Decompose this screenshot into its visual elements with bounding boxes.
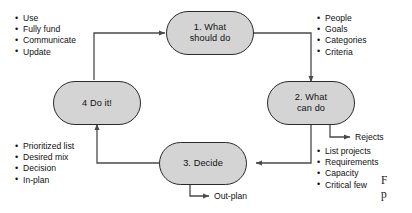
list-item: People xyxy=(317,13,367,24)
bullet-list-can-do-outputs: List projects Requirements Capacity Crit… xyxy=(317,146,379,191)
bullet-list-decide-outputs: Prioritized list Desired mix Decision In… xyxy=(15,141,74,186)
bullet-list-do-it-outputs: Use Fully fund Communicate Update xyxy=(15,13,76,58)
connector-decide-to-outplan xyxy=(190,184,209,196)
list-item: Capacity xyxy=(317,168,379,179)
list-item: Fully fund xyxy=(15,24,76,35)
node-what-can-do-line2: can do xyxy=(295,103,327,114)
node-do-it[interactable]: 4 Do it! xyxy=(53,81,141,125)
node-what-can-do-line1: 2. What xyxy=(295,92,327,103)
connector-cando-to-decide xyxy=(256,124,311,163)
list-item: Criteria xyxy=(317,47,367,58)
connector-decide-to-doit xyxy=(97,124,160,163)
node-what-should-do[interactable]: 1. What should do xyxy=(166,11,254,55)
list-item: Goals xyxy=(317,24,367,35)
bullet-list-should-do-outputs: People Goals Categories Criteria xyxy=(317,13,367,58)
node-do-it-line1: 4 Do it! xyxy=(82,98,112,109)
list-item: Use xyxy=(15,13,76,24)
list-item: Decision xyxy=(15,163,74,174)
list-item: Prioritized list xyxy=(15,141,74,152)
list-item: Requirements xyxy=(317,157,379,168)
node-what-should-do-line1: 1. What xyxy=(190,22,231,33)
branch-label-rejects: Rejects xyxy=(355,132,384,142)
connector-shoulddo-to-cando xyxy=(253,33,311,82)
list-item: Critical few xyxy=(317,180,379,191)
connector-cando-to-rejects xyxy=(330,124,350,137)
node-decide-line1: 3. Decide xyxy=(183,158,223,169)
node-what-should-do-line2: should do xyxy=(190,33,231,44)
figure-canvas: 1. What should do 2. What can do 3. Deci… xyxy=(0,0,412,213)
list-item: List projects xyxy=(317,146,379,157)
figure-caption-line1: F xyxy=(381,174,387,188)
list-item: Communicate xyxy=(15,35,76,46)
branch-label-out-plan: Out-plan xyxy=(214,191,247,201)
list-item: In-plan xyxy=(15,175,74,186)
list-item: Update xyxy=(15,47,76,58)
list-item: Categories xyxy=(317,35,367,46)
node-what-can-do[interactable]: 2. What can do xyxy=(267,81,355,125)
figure-caption-line2: p xyxy=(381,188,387,202)
list-item: Desired mix xyxy=(15,152,74,163)
connector-doit-to-shoulddo xyxy=(94,33,165,80)
node-decide[interactable]: 3. Decide xyxy=(159,142,247,185)
